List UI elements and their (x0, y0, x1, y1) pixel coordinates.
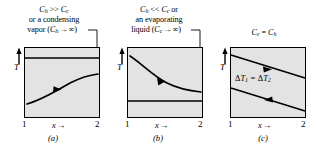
panel-c-cold-flow-arrowhead (264, 97, 273, 103)
panel-a-cold-flow-arrowhead (53, 86, 62, 92)
panel-b-yaxis-arrowhead (119, 48, 124, 55)
panel-b-x-arrow: → (159, 120, 169, 130)
panel-c-T2-sub: 2 (268, 77, 271, 83)
panel-b-x-axis-label: x→ (155, 120, 168, 130)
panel-b-caption: (b) (105, 133, 211, 143)
panel-b-curves (105, 0, 211, 155)
panel-b-y-axis-label: T (117, 62, 122, 72)
panel-c-yaxis-arrowhead (222, 48, 227, 55)
panel-c-caption: (c) (210, 133, 316, 143)
panel-b: Ch<<Ccor an evaporating liquid (Cc→∞) T … (105, 0, 211, 155)
panel-a-cold-stream-curve (27, 74, 98, 104)
panel-a-caption: (a) (0, 133, 106, 143)
panel-c-x-arrow: → (262, 120, 272, 130)
panel-c-x-axis-label: x→ (258, 120, 271, 130)
panel-a-x-tick-right: 2 (95, 119, 100, 129)
panel-c-delta-op: = (248, 74, 258, 83)
panel-b-x-tick-right: 2 (198, 119, 203, 129)
panel-a: Ch>>Cc or a condensing vapor (Ch→∞) T 1 (0, 0, 106, 155)
panel-a-x-tick-left: 1 (22, 119, 27, 129)
panel-a-x-axis-label: x→ (52, 120, 65, 130)
panel-b-hot-flow-arrowhead (157, 77, 166, 85)
heat-exchanger-figure: Ch>>Cc or a condensing vapor (Ch→∞) T 1 (0, 0, 316, 155)
panel-c-x-tick-left: 1 (228, 119, 233, 129)
panel-a-y-axis-label: T (14, 62, 19, 72)
panel-c-x-tick-right: 2 (301, 119, 306, 129)
panel-c-y-axis-label: T (220, 62, 225, 72)
panel-b-hot-stream-curve (130, 56, 201, 92)
panel-a-yaxis-arrowhead (16, 48, 21, 55)
panel-c-delta-t-label: ΔT1=ΔT2 (235, 74, 271, 83)
panel-b-x-tick-left: 1 (125, 119, 130, 129)
panel-a-x-arrow: → (56, 120, 66, 130)
panel-a-curves (0, 0, 106, 155)
panel-c: Cc=Ch ΔT1=ΔT2 T 1 2 x→ (c) (210, 0, 316, 155)
